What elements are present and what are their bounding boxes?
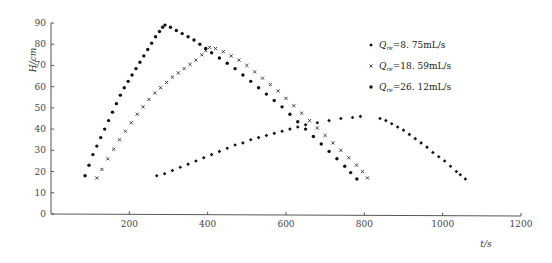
y-tick-label: 40	[35, 124, 47, 134]
y-tick-label: 30	[35, 145, 47, 155]
y-tick-label: 0	[40, 209, 46, 219]
y-tick-label: 60	[35, 82, 47, 92]
y-axis-title: H/cm	[28, 48, 38, 73]
x-tick-label: 1000	[431, 219, 454, 229]
y-tick-label: 90	[35, 18, 47, 28]
x-tick-label: 1200	[510, 219, 533, 229]
legend-label: Qre=8. 75mL/s	[379, 40, 446, 51]
series-diamond	[155, 115, 467, 181]
legend-item: Qre=26. 12mL/s	[369, 82, 451, 93]
x-tick-label: 400	[199, 219, 216, 229]
series-cross	[95, 46, 369, 180]
legend-label: Qre=18. 59mL/s	[379, 61, 452, 72]
legend-item: Qre=18. 59mL/s	[369, 61, 451, 72]
legend-label: Qre=26. 12mL/s	[379, 82, 452, 93]
x-axis: 20040060080010001200	[51, 211, 533, 229]
x-tick-label: 600	[277, 219, 294, 229]
y-tick-label: 80	[35, 39, 47, 49]
x-axis-title: t/s	[480, 239, 492, 249]
series-circle	[83, 23, 358, 180]
y-tick-label: 50	[35, 103, 47, 113]
legend: Qre=8. 75mL/sQre=18. 59mL/sQre=26. 12mL/…	[369, 40, 451, 93]
y-tick-label: 20	[35, 167, 47, 177]
y-tick-label: 10	[35, 188, 47, 198]
x-tick-label: 800	[356, 219, 373, 229]
legend-item: Qre=8. 75mL/s	[369, 40, 446, 51]
chart-canvas: 0102030405060708090 20040060080010001200…	[0, 0, 552, 263]
x-tick-label: 200	[121, 219, 138, 229]
